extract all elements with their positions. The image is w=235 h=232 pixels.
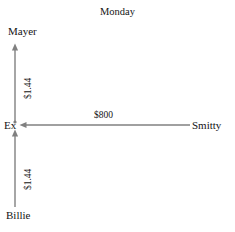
- node-label-ex: Ex: [4, 119, 16, 131]
- diagram-canvas: Monday Mayer Ex Billie Smitty $1.44 $1.4…: [0, 0, 235, 232]
- edge-label-billie-ex: $1.44: [23, 169, 34, 190]
- node-label-billie: Billie: [6, 209, 30, 221]
- arrowhead-up-mayer: [12, 44, 18, 51]
- edge-label-smitty-ex: $800: [94, 110, 113, 121]
- diagram-title: Monday: [0, 6, 235, 18]
- node-label-mayer: Mayer: [8, 25, 37, 37]
- edge-ex-to-mayer: [12, 44, 18, 124]
- edge-billie-to-ex: [12, 130, 18, 208]
- edge-label-ex-mayer: $1.44: [23, 78, 34, 99]
- node-label-smitty: Smitty: [192, 119, 221, 131]
- edge-smitty-to-ex: [20, 122, 191, 128]
- arrowhead-left-ex: [20, 122, 27, 128]
